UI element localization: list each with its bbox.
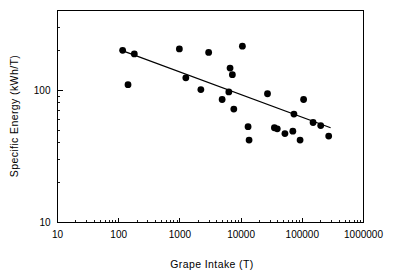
data-points bbox=[119, 43, 332, 144]
y-axis-major-ticks bbox=[58, 90, 63, 222]
data-point bbox=[119, 47, 126, 54]
data-point bbox=[125, 81, 132, 88]
data-point bbox=[182, 74, 189, 81]
data-point bbox=[131, 50, 138, 57]
plot-frame bbox=[58, 11, 364, 223]
scatter-plot-svg: 101001000100001000001000000 10100 Grape … bbox=[0, 0, 399, 279]
x-tick-label: 1000 bbox=[169, 229, 192, 240]
data-point bbox=[291, 111, 298, 118]
data-point bbox=[297, 137, 304, 144]
x-tick-label: 10000 bbox=[227, 229, 255, 240]
x-tick-label: 10 bbox=[52, 229, 64, 240]
data-point bbox=[176, 46, 183, 53]
data-point bbox=[219, 96, 226, 103]
data-point bbox=[289, 128, 296, 135]
x-axis-title: Grape Intake (T) bbox=[170, 258, 253, 270]
data-point bbox=[227, 65, 234, 72]
x-axis-major-ticks bbox=[58, 218, 364, 223]
data-point bbox=[246, 137, 253, 144]
y-tick-label: 10 bbox=[39, 217, 51, 228]
data-point bbox=[282, 130, 289, 137]
x-axis-tick-labels: 101001000100001000001000000 bbox=[52, 229, 383, 240]
data-point bbox=[197, 86, 204, 93]
x-tick-label: 100 bbox=[110, 229, 127, 240]
data-point bbox=[225, 89, 232, 96]
data-point bbox=[264, 90, 271, 97]
data-point bbox=[317, 122, 324, 129]
data-point bbox=[205, 49, 212, 56]
data-point bbox=[245, 123, 252, 130]
data-point bbox=[229, 71, 236, 78]
y-axis-title: Specific Energy (kWh/T) bbox=[8, 55, 20, 177]
x-tick-label: 100000 bbox=[286, 229, 320, 240]
data-point bbox=[239, 43, 246, 50]
data-point bbox=[274, 125, 281, 132]
data-point bbox=[300, 96, 307, 103]
data-point bbox=[230, 106, 237, 113]
y-axis-tick-labels: 10100 bbox=[34, 85, 51, 228]
y-tick-label: 100 bbox=[34, 85, 51, 96]
chart-figure: 101001000100001000001000000 10100 Grape … bbox=[0, 0, 399, 279]
x-tick-label: 1000000 bbox=[344, 229, 383, 240]
data-point bbox=[325, 133, 332, 140]
data-point bbox=[310, 119, 317, 126]
